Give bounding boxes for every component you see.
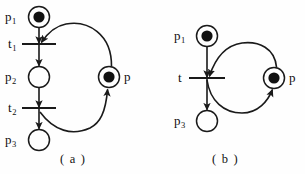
label-b-p1: p1 <box>174 29 185 42</box>
petri-net-svg <box>0 0 305 174</box>
label-a-p: p <box>124 70 131 83</box>
arc-a-t2-p <box>40 89 108 131</box>
label-a-p3: p3 <box>5 133 16 146</box>
label-b-p3: p3 <box>174 114 185 127</box>
label-b-t: t <box>178 71 182 84</box>
place-a-p3[interactable] <box>29 130 50 151</box>
place-b-p1[interactable] <box>197 26 218 47</box>
label-a-p1: p1 <box>5 10 16 23</box>
token-dot <box>268 72 279 83</box>
label-a-t2: t2 <box>8 101 16 114</box>
label-b-p: p <box>289 71 296 84</box>
caption-a: ( a ) <box>60 152 86 167</box>
place-b-p3[interactable] <box>197 111 218 132</box>
label-a-p2: p2 <box>5 70 16 83</box>
token-dot <box>201 30 212 41</box>
label-a-t1: t1 <box>8 37 16 50</box>
token-dot <box>103 71 114 82</box>
subfigure-a <box>22 7 120 151</box>
arc-b-t-p <box>207 80 272 113</box>
token-dot <box>33 11 44 22</box>
place-b-p[interactable] <box>264 68 285 89</box>
place-a-p1[interactable] <box>29 7 50 28</box>
subfigure-b <box>189 26 285 132</box>
place-a-p[interactable] <box>99 67 120 88</box>
figure-canvas: p1 t1 p2 t2 p3 p ( a ) p1 t p3 p ( b ) <box>0 0 305 174</box>
caption-b: ( b ) <box>212 152 239 167</box>
place-a-p2[interactable] <box>29 67 50 88</box>
